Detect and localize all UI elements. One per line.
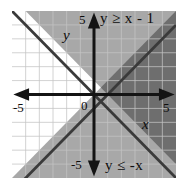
inequality-label-bottom: y ≤ -x: [105, 158, 143, 173]
inequality-label-top: y ≥ x - 1: [100, 11, 154, 26]
x-axis-tick-label-positive-5: 5: [163, 101, 170, 114]
y-axis-tick-label-negative-5: -5: [71, 158, 82, 171]
x-axis-tick-label-negative-5: -5: [13, 101, 24, 114]
coordinate-plane: [12, 11, 176, 178]
inequality-graph-screenshot: y ≥ x - 1 y ≤ -x y x 5 -5 -5 5 0: [0, 0, 181, 185]
x-axis-variable-label: x: [142, 117, 149, 132]
plot-canvas: [12, 11, 176, 178]
y-axis-tick-label-positive-5: 5: [79, 13, 86, 26]
y-axis-variable-label: y: [63, 28, 70, 43]
origin-label: 0: [81, 99, 88, 112]
